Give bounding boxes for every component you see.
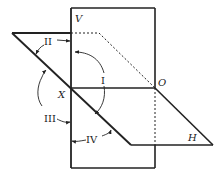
arrow-quadrant-ii [57,40,70,41]
arrow-quadrant-iv [72,140,86,141]
axis-o-label: O [158,77,166,88]
horizontal-plane-h [12,33,213,145]
axis-x-label: X [57,89,66,100]
quadrant-iv-label: IV [86,134,98,145]
plane-v-label: V [75,13,84,24]
plane-h-label: H [187,132,197,143]
arrow-quadrant-i [75,52,104,73]
quadrant-i-label: I [101,75,105,86]
quadrant-ii-label: II [44,36,52,47]
quadrant-iii-label: III [44,113,56,124]
arrow-quadrant-iii [38,77,42,106]
projection-planes-diagram: V H X O I II III IV [0,0,222,178]
